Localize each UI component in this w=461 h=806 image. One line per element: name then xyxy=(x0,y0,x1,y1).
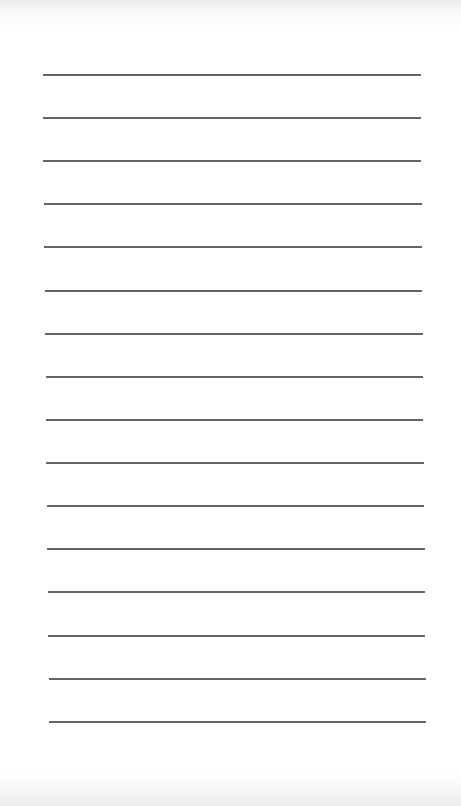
ruled-line xyxy=(46,376,423,378)
ruled-line xyxy=(45,333,423,335)
ruled-line xyxy=(46,419,423,421)
ruled-line xyxy=(44,246,422,248)
ruled-line xyxy=(49,721,426,723)
ruled-line xyxy=(45,290,422,292)
ruled-line xyxy=(48,591,425,593)
ruled-line xyxy=(48,635,425,637)
lined-paper-page xyxy=(0,0,461,806)
ruled-line xyxy=(44,203,422,205)
ruled-line xyxy=(49,678,426,680)
ruled-line xyxy=(43,74,421,76)
ruled-line xyxy=(43,160,421,162)
ruled-line xyxy=(47,505,424,507)
ruled-line xyxy=(43,117,421,119)
ruled-line xyxy=(47,548,425,550)
ruled-line xyxy=(46,462,424,464)
